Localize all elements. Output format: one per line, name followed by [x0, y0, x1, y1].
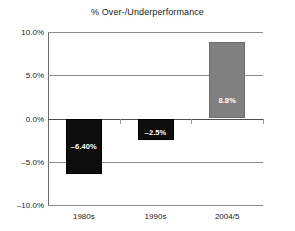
y-axis-tick-labels: 10.0%5.0%0.0%–5.0%–10.0%: [0, 32, 44, 205]
y-tick-label: –5.0%: [2, 157, 44, 166]
bar-value-label: –2.5%: [145, 128, 167, 137]
chart-title: % Over-/Underperformance: [0, 7, 295, 17]
y-tick-label: 5.0%: [2, 71, 44, 80]
plot-area: –6.40%–2.5%8.8%: [48, 32, 263, 205]
y-tick-label: 0.0%: [2, 114, 44, 123]
x-tick-label: 1990s: [145, 212, 167, 221]
category-tick-mark: [191, 119, 192, 124]
y-tick-label: –10.0%: [2, 201, 44, 210]
chart-container: % Over-/Underperformance 10.0%5.0%0.0%–5…: [0, 0, 295, 231]
x-axis-tick-labels: 1980s1990s2004/5: [48, 212, 263, 226]
gridline: [48, 205, 263, 206]
y-tick-label: 10.0%: [2, 28, 44, 37]
category-tick-mark: [263, 119, 264, 124]
bar-2004-5: [209, 42, 245, 118]
bar-value-label: –6.40%: [71, 142, 97, 151]
gridline: [48, 32, 263, 33]
x-tick-label: 2004/5: [215, 212, 239, 221]
x-tick-label: 1980s: [73, 212, 95, 221]
bar-value-label: 8.8%: [218, 96, 236, 105]
category-tick-mark: [120, 119, 121, 124]
